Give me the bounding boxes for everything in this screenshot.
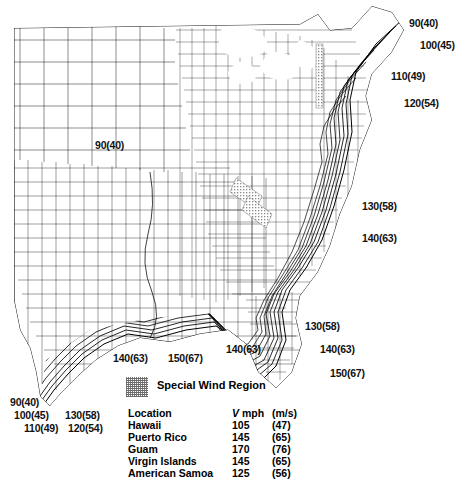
- special-wind-region-swatch: [126, 377, 148, 397]
- contour-label: 110(49): [391, 70, 425, 82]
- contour-label: 130(58): [362, 200, 397, 212]
- contour-label: 120(54): [68, 422, 103, 434]
- island-wind-speed-table: Location V mph (m/s) Hawaii 105 (47) Pue…: [128, 408, 312, 481]
- contour-label: 140(63): [320, 343, 355, 355]
- contour-label: 150(67): [168, 352, 203, 364]
- cell-mph: 125: [232, 468, 272, 480]
- contour-label: 90(40): [409, 17, 438, 29]
- contour-label: 130(58): [65, 409, 100, 421]
- header-v-symbol: V: [232, 407, 239, 419]
- special-wind-region-label: Special Wind Region: [157, 379, 266, 391]
- wind-speed-map-figure: 90(40) 100(45) 110(49) 120(54) 90(40) 13…: [0, 0, 461, 492]
- contour-label: 90(40): [10, 396, 39, 408]
- contour-label: 140(63): [113, 352, 148, 364]
- contour-label: 140(63): [362, 232, 397, 244]
- header-mph-unit: mph: [239, 407, 264, 419]
- contour-label: 90(40): [95, 139, 124, 151]
- contour-label: 140(63): [226, 343, 261, 355]
- contour-label: 130(58): [305, 320, 340, 332]
- table-row: American Samoa 125 (56): [128, 468, 312, 480]
- contour-label: 110(49): [24, 422, 58, 434]
- contour-label: 150(67): [330, 367, 365, 379]
- contour-label: 100(45): [14, 409, 49, 421]
- contour-label: 100(45): [420, 39, 455, 51]
- cell-ms: (56): [272, 468, 312, 480]
- cell-location: American Samoa: [128, 468, 232, 480]
- contour-label: 120(54): [404, 97, 439, 109]
